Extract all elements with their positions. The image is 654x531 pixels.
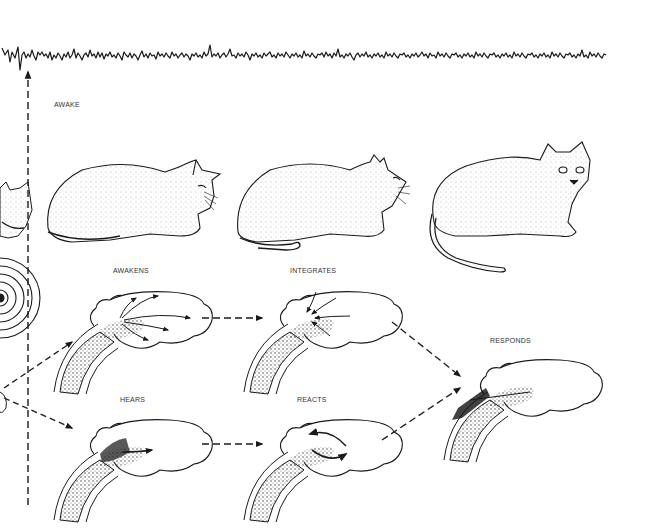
eeg-trace [2, 45, 606, 70]
stage-label-awakens: AWAKENS [113, 267, 149, 274]
arrow-integrates-to-responds [392, 322, 460, 376]
brain-awakens [54, 292, 212, 394]
cat-resting-illustration [48, 160, 220, 242]
cat-alert-illustration [238, 155, 410, 250]
brain-hears [54, 420, 212, 522]
stage-label-responds: RESPONDS [490, 337, 531, 344]
sound-waves-icon [0, 258, 40, 338]
stage-label-reacts: REACTS [297, 396, 327, 403]
ear-partial [0, 392, 6, 413]
arrow-reacts-to-responds [382, 388, 460, 440]
cat-head-partial [0, 182, 32, 238]
brain-responds [444, 360, 602, 462]
brain-reacts [244, 420, 402, 522]
cat-looking-illustration [430, 142, 590, 272]
brain-integrates [244, 292, 402, 394]
stage-label-integrates: INTEGRATES [290, 267, 336, 274]
awake-label: AWAKE [54, 101, 80, 108]
figure-canvas [0, 0, 654, 531]
arrow-to-hears [4, 398, 72, 428]
stage-label-hears: HEARS [120, 396, 145, 403]
